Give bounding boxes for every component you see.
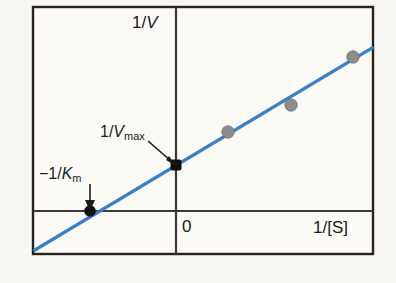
vmax-label-prefix: 1/: [100, 123, 113, 140]
y-axis-label: 1/V: [132, 14, 158, 31]
km-label-prefix: −1/: [39, 165, 62, 182]
plot-panel-background: [33, 7, 373, 254]
km-label-subscript: m: [72, 172, 81, 184]
data-point: [347, 51, 359, 63]
data-point: [285, 99, 297, 111]
plot-canvas: [0, 0, 396, 283]
origin-tick-label: 0: [182, 218, 191, 235]
x-axis-label: 1/[S]: [313, 219, 348, 236]
vmax-label-variable: V: [113, 123, 124, 140]
vmax-label-subscript: max: [124, 130, 145, 142]
y-axis-label-prefix: 1/: [132, 13, 146, 32]
vmax-annotation-label: 1/Vmax: [100, 124, 145, 140]
data-point: [222, 126, 234, 138]
km-annotation-label: −1/Km: [39, 166, 82, 182]
y-axis-label-variable: V: [146, 13, 157, 32]
lineweaver-burk-figure: 1/V 1/[S] 0 1/Vmax −1/Km: [0, 0, 396, 283]
km-label-variable: K: [62, 165, 73, 182]
